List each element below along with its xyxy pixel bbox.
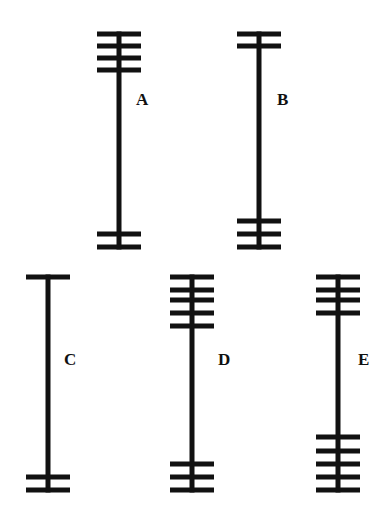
rod-crossbar (316, 449, 360, 454)
rod-crossbar (316, 275, 360, 280)
rod-crossbar (316, 488, 360, 493)
rod-crossbar (97, 245, 141, 250)
rod-crossbar (97, 32, 141, 37)
rod-crossbar (26, 488, 70, 493)
rod-crossbar (170, 298, 214, 303)
rod-crossbar (170, 275, 214, 280)
diagram-canvas: A B C D E (0, 0, 390, 524)
rod-crossbar (97, 68, 141, 73)
rod-crossbar (316, 311, 360, 316)
rod-crossbar (97, 44, 141, 49)
rod-crossbar (97, 56, 141, 61)
rod-stem (190, 275, 195, 493)
figure-label-d: D (218, 351, 230, 368)
rod-crossbar (316, 435, 360, 440)
rod-crossbar (170, 488, 214, 493)
rod-crossbar (237, 245, 281, 250)
rod-crossbar (170, 475, 214, 480)
rod-diagram (0, 0, 390, 524)
rod-crossbar (170, 324, 214, 329)
figure-label-b: B (277, 91, 288, 108)
rod-crossbar (26, 275, 70, 280)
figure-label-a: A (136, 91, 148, 108)
rod-crossbar (237, 232, 281, 237)
figure-label-e: E (358, 351, 369, 368)
rod-crossbar (316, 298, 360, 303)
rod-figure-a (97, 32, 141, 250)
rod-figure-e (316, 275, 360, 493)
rod-crossbar (237, 32, 281, 37)
rod-stem (336, 275, 341, 493)
rod-crossbar (316, 462, 360, 467)
rod-crossbar (237, 44, 281, 49)
figure-label-c: C (64, 351, 76, 368)
rod-crossbar (237, 219, 281, 224)
rod-stem (257, 32, 262, 250)
rod-crossbar (316, 288, 360, 293)
rod-figure-d (170, 275, 214, 493)
rod-stem (46, 275, 51, 493)
rod-crossbar (170, 288, 214, 293)
rod-figure-b (237, 32, 281, 250)
rod-crossbar (170, 311, 214, 316)
rod-crossbar (26, 475, 70, 480)
rod-stem (117, 32, 122, 250)
rod-figure-c (26, 275, 70, 493)
rod-crossbar (316, 475, 360, 480)
rod-crossbar (170, 462, 214, 467)
rod-crossbar (97, 232, 141, 237)
